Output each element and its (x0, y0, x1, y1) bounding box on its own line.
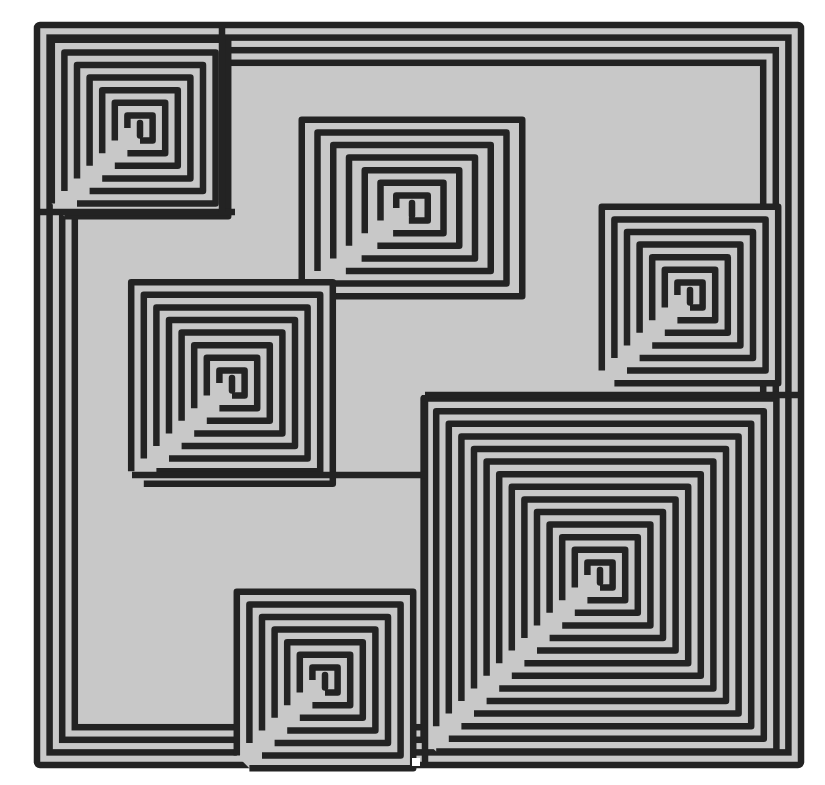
spiral-right (602, 207, 778, 383)
maze-image (0, 0, 825, 785)
maze-entrance-gap (412, 758, 420, 766)
spiral-top-left (52, 40, 228, 216)
spiral-bottom-center (237, 592, 413, 768)
spiral-middle-left (131, 282, 333, 484)
spiral-top-center (302, 120, 523, 296)
spiral-bottom-right (424, 399, 777, 752)
